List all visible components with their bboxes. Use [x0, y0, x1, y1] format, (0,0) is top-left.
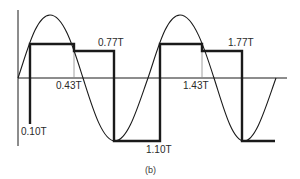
waveform-diagram: 0.10T 0.43T 0.77T 1.10T 1.43T 1.77T (b) — [0, 0, 300, 179]
label-0.77T: 0.77T — [98, 38, 124, 48]
label-0.43T: 0.43T — [56, 81, 82, 91]
label-0.10T: 0.10T — [21, 127, 47, 137]
figure-caption: (b) — [145, 166, 156, 175]
label-1.10T: 1.10T — [146, 145, 172, 155]
label-1.43T: 1.43T — [183, 81, 209, 91]
label-1.77T: 1.77T — [228, 38, 254, 48]
step-waveform — [30, 44, 275, 141]
